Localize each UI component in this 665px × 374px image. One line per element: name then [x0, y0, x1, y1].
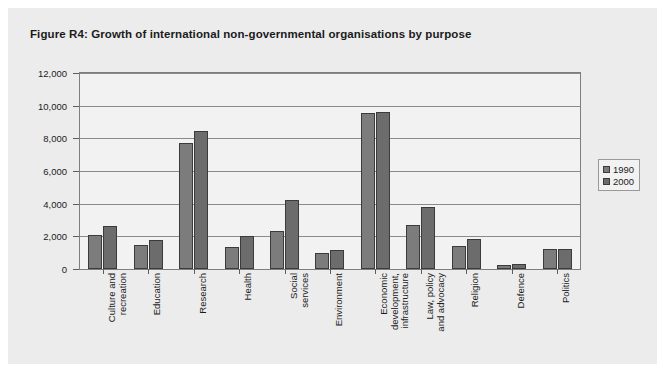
bars-layer	[80, 73, 580, 269]
bar-1990	[543, 249, 557, 269]
figure-title: Figure R4: Growth of international non-g…	[30, 28, 471, 40]
legend-swatch-icon	[603, 178, 610, 185]
bar-group	[80, 73, 125, 269]
legend-label: 2000	[613, 176, 634, 187]
bar-group	[262, 73, 307, 269]
bar-2000	[421, 207, 435, 269]
bar-group	[489, 73, 534, 269]
bar-2000	[512, 264, 526, 269]
bar-1990	[270, 231, 284, 269]
legend-item-1990: 1990	[603, 163, 634, 175]
y-axis-tick-label: 0	[62, 264, 67, 275]
bar-1990	[134, 245, 148, 269]
y-axis-tick-label: 4,000	[43, 198, 67, 209]
x-axis-category-label: Economicdevelopment,infrastructure	[379, 273, 411, 365]
figure-panel: Figure R4: Growth of international non-g…	[8, 8, 657, 364]
bar-1990	[497, 265, 511, 269]
bar-group	[398, 73, 443, 269]
bar-1990	[406, 225, 420, 269]
bar-group	[125, 73, 170, 269]
bar-2000	[149, 240, 163, 269]
legend-item-2000: 2000	[603, 175, 634, 187]
bar-1990	[315, 253, 329, 269]
x-axis-category-label: Education	[152, 273, 163, 365]
y-axis-tick-label: 6,000	[43, 166, 67, 177]
x-axis-category-label: Culture andrecreation	[107, 273, 128, 365]
y-axis-tick-label: 8,000	[43, 133, 67, 144]
y-axis-tick-label: 2,000	[43, 231, 67, 242]
bar-1990	[225, 247, 239, 269]
x-axis-category-label: Politics	[561, 273, 572, 365]
bar-group	[307, 73, 352, 269]
bar-group	[444, 73, 489, 269]
x-axis-category-label: Environment	[334, 273, 345, 365]
x-axis-category-label: Religion	[470, 273, 481, 365]
bar-2000	[285, 200, 299, 269]
plot-area	[79, 72, 581, 270]
bar-1990	[179, 143, 193, 269]
bar-2000	[330, 250, 344, 269]
bar-group	[216, 73, 261, 269]
x-axis-labels: Culture andrecreationEducationResearchHe…	[79, 271, 581, 363]
bar-2000	[376, 112, 390, 269]
x-axis-category-label: Research	[198, 273, 209, 365]
chart-legend: 19902000	[598, 159, 640, 191]
x-axis-category-label: Health	[243, 273, 254, 365]
bar-1990	[361, 113, 375, 269]
bar-2000	[240, 236, 254, 269]
bar-group	[171, 73, 216, 269]
legend-swatch-icon	[603, 166, 610, 173]
x-axis-category-label: Defence	[516, 273, 527, 365]
bar-group	[535, 73, 580, 269]
legend-label: 1990	[613, 164, 634, 175]
x-axis-category-label: Law, policyand advocacy	[425, 273, 446, 365]
bar-group	[353, 73, 398, 269]
y-axis-tick-label: 10,000	[38, 100, 67, 111]
bar-2000	[558, 249, 572, 269]
bar-2000	[194, 131, 208, 269]
bar-2000	[103, 226, 117, 269]
bar-1990	[88, 235, 102, 269]
bar-1990	[452, 246, 466, 269]
x-axis-category-label: Socialservices	[289, 273, 310, 365]
bar-2000	[467, 239, 481, 269]
y-axis: 02,0004,0006,0008,00010,00012,000	[8, 72, 79, 270]
y-axis-tick-label: 12,000	[38, 68, 67, 79]
